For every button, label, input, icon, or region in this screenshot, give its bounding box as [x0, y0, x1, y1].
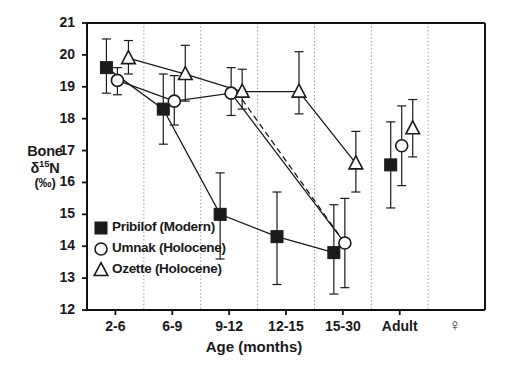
- y-tick-label: 13: [49, 269, 75, 285]
- data-point-filled-square: [271, 231, 283, 243]
- y-tick-label: 15: [49, 205, 75, 221]
- data-point-filled-square: [385, 159, 397, 171]
- x-tick-label-Adult: Adult: [365, 318, 435, 334]
- data-point-open-triangle: [406, 121, 420, 134]
- y-tick-label: 21: [49, 14, 75, 30]
- data-point-open-triangle: [122, 51, 136, 64]
- y-tick-label: 17: [49, 142, 75, 158]
- y-tick-label: 12: [49, 301, 75, 317]
- data-point-open-triangle: [292, 84, 306, 97]
- legend-label-pribilof: Pribilof (Modern): [112, 219, 215, 234]
- legend-marker-open-circle: [95, 243, 107, 255]
- y-tick-label: 19: [49, 78, 75, 94]
- x-axis-title: Age (months): [0, 338, 508, 355]
- legend-label-umnak: Umnak (Holocene): [112, 240, 226, 255]
- data-point-open-circle: [396, 140, 408, 152]
- data-point-filled-square: [328, 247, 340, 259]
- y-tick-label: 18: [49, 110, 75, 126]
- legend-label-ozette: Ozette (Holocene): [112, 261, 222, 276]
- bone-isotope-chart: Bone δ15N (‰) Age (months) 1213141516171…: [0, 0, 508, 371]
- data-point-open-circle: [111, 74, 123, 86]
- data-point-filled-square: [157, 103, 169, 115]
- data-point-open-circle: [339, 237, 351, 249]
- data-point-filled-square: [100, 62, 112, 74]
- data-point-filled-square: [214, 208, 226, 220]
- y-tick-label: 20: [49, 46, 75, 62]
- legend-marker-open-triangle: [94, 263, 108, 276]
- x-tick-label-female-symbol: ♀: [449, 316, 462, 336]
- data-point-open-circle: [168, 95, 180, 107]
- y-tick-label: 16: [49, 173, 75, 189]
- legend-marker-filled-square: [95, 222, 107, 234]
- y-tick-label: 14: [49, 237, 75, 253]
